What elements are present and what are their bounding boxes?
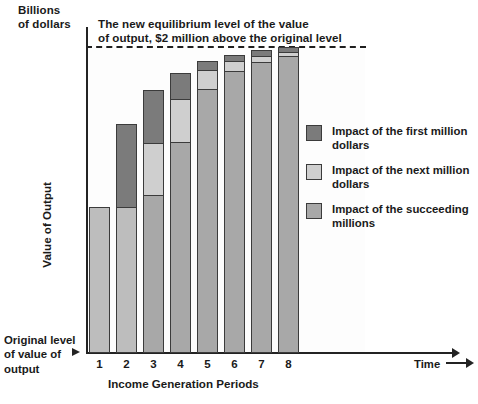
x-axis-title: Income Generation Periods: [108, 377, 259, 391]
y-axis-title: Value of Output: [40, 170, 54, 280]
bar-segment-succ: [197, 89, 218, 353]
bar-period-4: [170, 0, 191, 353]
chart-figure: Billions of dollars The new equilibrium …: [0, 0, 478, 404]
time-axis-label: Time: [414, 358, 440, 371]
bar-segment-first: [224, 55, 245, 62]
bar-segment-first: [143, 90, 164, 144]
bar-segment-succ: [224, 71, 245, 353]
time-arrow-head-icon: [466, 358, 474, 368]
bar-period-7: [251, 0, 272, 353]
legend-item-next-million: Impact of the next million dollars: [306, 163, 474, 193]
time-arrow-line-icon: [446, 362, 468, 364]
bar-segment-next: [224, 61, 245, 72]
legend-item-succeeding-millions: Impact of the succeeding millions: [306, 202, 474, 232]
bar-segment-base: [116, 207, 137, 353]
x-tick-label-7: 7: [251, 358, 272, 372]
legend-label-succeeding-millions: Impact of the succeeding millions: [332, 202, 474, 231]
bar-segment-next: [197, 70, 218, 90]
x-tick-label-1: 1: [89, 358, 110, 372]
bar-period-2: [116, 0, 137, 353]
bar-period-6: [224, 0, 245, 353]
legend-swatch-succeeding-millions: [306, 203, 322, 219]
bar-period-5: [197, 0, 218, 353]
x-tick-label-6: 6: [224, 358, 245, 372]
x-tick-label-5: 5: [197, 358, 218, 372]
bar-period-8: [278, 0, 299, 353]
x-tick-label-4: 4: [170, 358, 191, 372]
bar-segment-base: [89, 207, 110, 353]
bar-segment-next: [251, 56, 272, 63]
bar-segment-first: [116, 124, 137, 208]
bar-segment-first: [278, 47, 299, 53]
x-tick-label-8: 8: [278, 358, 299, 372]
legend-swatch-first-million: [306, 125, 322, 141]
legend-label-first-million: Impact of the first million dollars: [332, 124, 474, 153]
bar-period-1: [89, 0, 110, 353]
legend-item-first-million: Impact of the first million dollars: [306, 124, 474, 154]
chart-legend: Impact of the first million dollarsImpac…: [306, 124, 474, 241]
bar-segment-succ: [278, 56, 299, 353]
bar-segment-first: [251, 50, 272, 57]
legend-swatch-next-million: [306, 164, 322, 180]
bar-segment-succ: [170, 142, 191, 353]
bar-period-3: [143, 0, 164, 353]
bar-segment-first: [170, 73, 191, 100]
bar-segment-succ: [251, 62, 272, 353]
bar-segment-succ: [143, 195, 164, 353]
legend-label-next-million: Impact of the next million dollars: [332, 163, 474, 192]
x-tick-label-3: 3: [143, 358, 164, 372]
bar-segment-next: [143, 143, 164, 196]
bar-segment-first: [197, 61, 218, 71]
x-tick-label-2: 2: [116, 358, 137, 372]
bar-segment-next: [170, 99, 191, 143]
origin-level-note: Original level of value of output: [4, 333, 76, 376]
